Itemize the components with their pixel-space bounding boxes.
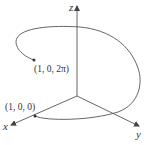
z-axis-label: z bbox=[68, 1, 74, 13]
y-axis-label: y bbox=[135, 128, 141, 140]
end-point-marker bbox=[33, 59, 36, 62]
start-point-marker bbox=[34, 115, 37, 118]
y-axis bbox=[77, 96, 139, 126]
helix-diagram: z x y (1, 0, 0) (1, 0, 2π) bbox=[0, 0, 147, 145]
end-point-label: (1, 0, 2π) bbox=[34, 64, 69, 75]
x-axis-label: x bbox=[2, 120, 8, 132]
start-point-label: (1, 0, 0) bbox=[5, 102, 35, 113]
